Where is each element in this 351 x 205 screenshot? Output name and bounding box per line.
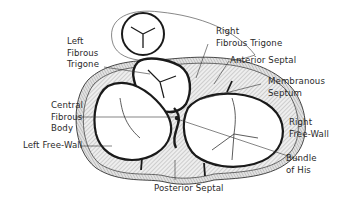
label-membranous-septum: Membranous Septum <box>268 76 325 99</box>
label-left-free-wall: Left Free-Wall <box>23 140 82 152</box>
heart-valve-diagram: Left Fibrous Trigone Right Fibrous Trigo… <box>0 0 351 205</box>
label-central-fibrous-body: Central Fibrous Body <box>51 100 83 135</box>
label-anterior-septal: Anterior Septal <box>230 55 296 67</box>
label-right-fibrous-trigone: Right Fibrous Trigone <box>216 26 282 49</box>
label-right-free-wall: Right Free-Wall <box>289 117 329 140</box>
label-bundle-of-his: Bundle of His <box>286 153 317 176</box>
label-left-fibrous-trigone: Left Fibrous Trigone <box>67 36 99 71</box>
label-posterior-septal: Posterior Septal <box>154 183 224 195</box>
